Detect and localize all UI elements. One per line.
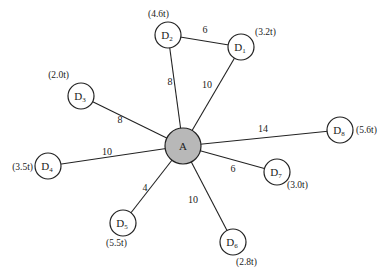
node-label-subscript: 6 <box>234 242 238 250</box>
demand-label-d5: (5.5t) <box>106 238 127 249</box>
node-label-base: D <box>333 124 341 136</box>
node-label-subscript: 8 <box>341 130 345 138</box>
demand-label-d4: (3.5t) <box>12 162 33 173</box>
node-label-base: D <box>116 217 124 229</box>
node-label-base: D <box>226 236 234 248</box>
edge-a-d4 <box>48 146 183 166</box>
node-d5: D5 <box>110 210 136 236</box>
node-label-subscript: 7 <box>278 172 282 180</box>
hub-label: A <box>179 140 187 152</box>
node-d8: D8 <box>327 117 353 143</box>
node-d3: D3 <box>68 83 94 109</box>
node-label-base: D <box>41 160 49 172</box>
node-label-base: D <box>74 90 82 102</box>
demand-label-d1: (3.2t) <box>255 27 276 38</box>
demand-label-d2: (4.6t) <box>148 9 169 20</box>
edge-weight-label: 14 <box>258 123 268 134</box>
node-label-base: D <box>234 41 242 53</box>
node-label-base: D <box>161 29 169 41</box>
node-label-subscript: 4 <box>49 166 53 174</box>
node-label-subscript: 5 <box>124 223 128 231</box>
demand-label-d3: (2.0t) <box>48 70 69 81</box>
node-label-subscript: 3 <box>82 96 86 104</box>
node-label-base: D <box>270 166 278 178</box>
demand-label-d8: (5.6t) <box>356 125 377 136</box>
demand-label-d6: (2.8t) <box>236 257 257 268</box>
hub-node-a: A <box>165 128 201 164</box>
node-d4: D4 <box>35 153 61 179</box>
node-d2: D2 <box>155 22 181 48</box>
node-d1: D1 <box>228 34 254 60</box>
demand-label-d7: (3.0t) <box>287 180 308 191</box>
edge-weight-label: 6 <box>231 163 236 174</box>
edge-weight-label: 4 <box>143 182 148 193</box>
edge-weight-label: 10 <box>188 194 198 205</box>
edge-weight-label: 8 <box>118 114 123 125</box>
edge-weight-label: 10 <box>102 146 112 157</box>
node-label-subscript: 2 <box>169 35 173 43</box>
node-d6: D6 <box>220 229 246 255</box>
network-diagram: 1086810410614 A D1D2D3D4D5D6D7D8 (3.2t)(… <box>0 0 385 275</box>
node-label-subscript: 1 <box>242 47 246 55</box>
edge-weight-label: 6 <box>203 24 208 35</box>
edge-weight-label: 8 <box>168 76 173 87</box>
edge-weight-label: 10 <box>202 79 212 90</box>
